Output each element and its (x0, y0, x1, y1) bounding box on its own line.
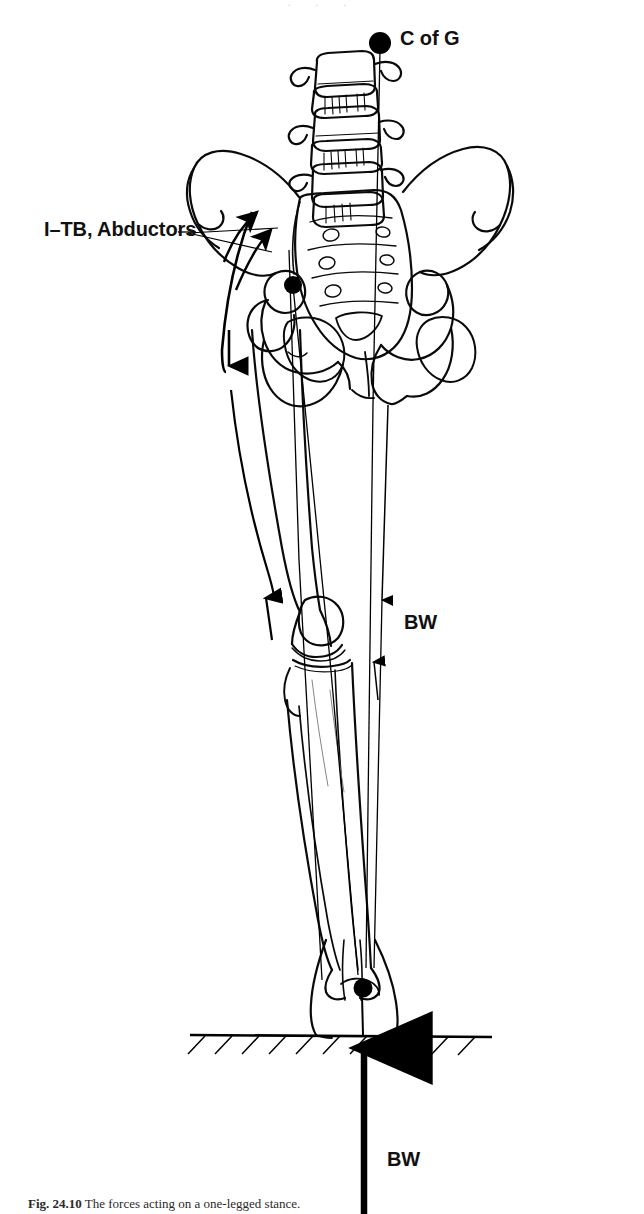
point-markers (284, 32, 391, 998)
femur (247, 300, 320, 612)
cofg-plumb-line (366, 50, 380, 968)
lumbar-spine (289, 51, 404, 227)
itb-return-curve (231, 390, 274, 596)
foot-load-line (362, 995, 363, 1035)
hip-joint-dot (284, 276, 302, 294)
figure-caption: Fig. 24.10 The forces acting on a one-le… (28, 1196, 618, 1214)
label-itb-abductors: I–TB, Abductors (44, 218, 196, 241)
cofg-dot (369, 32, 391, 54)
body-weight-vector-upper (374, 405, 388, 968)
sacrum (293, 190, 412, 359)
figure-caption-text: The forces acting on a one-legged stance… (85, 1196, 300, 1211)
label-body-weight-lower: BW (387, 1148, 420, 1171)
itb-upward-arrow (266, 598, 272, 640)
label-body-weight-upper: BW (404, 611, 437, 634)
skeleton-diagram-svg (0, 0, 644, 1214)
left-hip-bone (187, 151, 350, 406)
sacral-foramina (318, 226, 395, 298)
figure-caption-number: Fig. 24.10 (28, 1196, 82, 1211)
figure-root: · · · (0, 0, 644, 1214)
abductor-arrow-1 (224, 213, 256, 262)
hip-vertical-line (289, 250, 322, 980)
tibia-fibula (284, 663, 371, 970)
ground-surface (188, 1035, 492, 1055)
label-center-of-gravity: C of G (400, 27, 459, 50)
ankle-joint-dot (354, 979, 373, 998)
